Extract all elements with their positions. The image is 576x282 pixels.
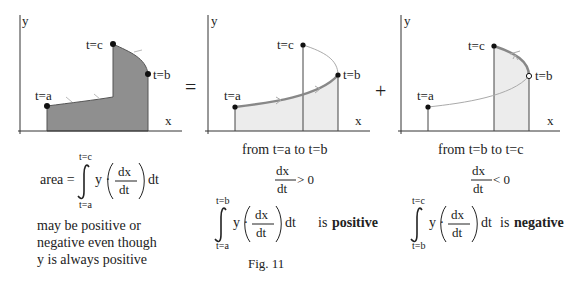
- range-text: from t=a to t=b: [242, 142, 327, 158]
- is-label: is: [500, 215, 509, 231]
- derivative-numerator: dx: [276, 163, 289, 179]
- point-c-label: t=c: [277, 37, 294, 53]
- note-line-1: may be positive or: [37, 218, 141, 234]
- integral-lower-limit: t=a: [79, 199, 92, 210]
- point-a-label: t=a: [417, 88, 434, 104]
- is-label: is: [318, 215, 327, 231]
- fraction-numerator: dx: [451, 207, 464, 223]
- point-c: [110, 41, 116, 47]
- integrand-y: y ·: [233, 215, 248, 231]
- fraction-numerator: dx: [255, 207, 268, 223]
- derivative-relation: > 0: [297, 172, 314, 188]
- derivative-numerator: dx: [472, 163, 485, 179]
- differential-dt: dt: [481, 215, 492, 231]
- note-line-3: y is always positive: [37, 252, 147, 268]
- note-line-2: negative even though: [37, 235, 157, 251]
- integral-upper-limit: t=c: [79, 151, 92, 162]
- fraction-denominator: dt: [452, 225, 462, 241]
- point-a-label: t=a: [35, 88, 52, 104]
- integral-upper-limit: t=c: [412, 195, 425, 206]
- x-axis-label: x: [165, 113, 172, 129]
- plus-sign: +: [375, 80, 386, 103]
- integral-sign-2: [215, 208, 226, 241]
- integral-lower-limit: t=b: [412, 240, 425, 251]
- point-a-label: t=a: [224, 88, 241, 104]
- y-axis-label: y: [211, 13, 218, 29]
- y-axis-label: y: [404, 13, 411, 29]
- point-b: [526, 73, 531, 78]
- integrand-y: y ·: [95, 172, 110, 188]
- point-b-label: t=b: [153, 67, 170, 83]
- fraction-numerator: dx: [118, 164, 131, 180]
- derivative-denominator: dt: [473, 181, 483, 197]
- range-text: from t=b to t=c: [438, 142, 523, 158]
- sign-negative: negative: [514, 215, 564, 231]
- differential-dt: dt: [148, 172, 159, 188]
- point-b: [335, 72, 340, 77]
- point-b-label: t=b: [535, 68, 552, 84]
- fraction-denominator: dt: [119, 182, 129, 198]
- figure-caption: Fig. 11: [248, 256, 284, 272]
- right-paren: [276, 206, 281, 242]
- point-a: [425, 104, 430, 109]
- fraction-denominator: dt: [256, 225, 266, 241]
- point-c-label: t=c: [86, 37, 103, 53]
- point-b: [145, 71, 151, 77]
- point-c: [491, 43, 496, 48]
- a-to-b-region: [235, 75, 338, 131]
- point-c-label: t=c: [468, 38, 485, 54]
- right-paren: [472, 206, 477, 242]
- derivative-relation: < 0: [493, 172, 510, 188]
- y-axis-label: y: [22, 13, 29, 29]
- right-paren: [139, 163, 144, 199]
- curve-b-to-c-thin: [303, 45, 338, 75]
- point-c: [300, 42, 305, 47]
- integral-sign-3: [411, 208, 422, 241]
- integral-upper-limit: t=b: [216, 195, 229, 206]
- differential-dt: dt: [285, 215, 296, 231]
- point-b-label: t=b: [343, 67, 360, 83]
- point-a: [232, 104, 237, 109]
- sign-positive: positive: [332, 215, 378, 231]
- integral-lower-limit: t=a: [216, 240, 229, 251]
- integrand-y: y ·: [429, 215, 444, 231]
- direction-tick: [66, 97, 72, 102]
- x-axis-label: x: [547, 113, 554, 129]
- total-area-region: [47, 44, 148, 131]
- x-axis-label: x: [355, 113, 362, 129]
- integral-sign-1: [78, 165, 89, 198]
- equals-sign: =: [185, 76, 196, 99]
- direction-tick: [94, 94, 100, 99]
- direction-tick: [134, 50, 142, 52]
- derivative-denominator: dt: [277, 181, 287, 197]
- area-label: area =: [40, 172, 75, 188]
